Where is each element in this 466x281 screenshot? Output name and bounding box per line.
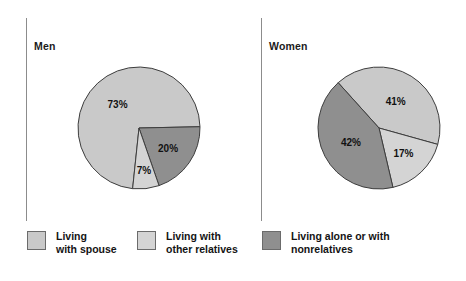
legend-label-living-alone-or-nonrelatives: Living alone or with nonrelatives xyxy=(291,230,390,255)
panel-divider-left xyxy=(26,18,27,221)
legend-swatch-living-with-spouse xyxy=(27,231,46,250)
legend-swatch-living-with-other-relatives xyxy=(137,231,156,250)
legend-label-living-with-spouse: Living with spouse xyxy=(56,230,117,255)
panel-divider-right xyxy=(261,18,262,221)
pie-slice-label: 20% xyxy=(158,143,178,154)
pie-chart-women: 41%17%42% xyxy=(316,65,442,191)
legend-item-living-with-spouse: Living with spouse xyxy=(27,230,117,255)
panel-title-women: Women xyxy=(269,40,308,52)
pie-slice-label: 17% xyxy=(393,148,413,159)
legend-item-living-with-other-relatives: Living with other relatives xyxy=(137,230,238,255)
legend-item-living-alone-or-nonrelatives: Living alone or with nonrelatives xyxy=(262,230,390,255)
pie-chart-men: 73%20%7% xyxy=(76,65,202,191)
pie-slice-label: 7% xyxy=(137,165,152,176)
legend-label-living-with-other-relatives: Living with other relatives xyxy=(166,230,238,255)
panel-title-men: Men xyxy=(34,40,56,52)
pie-slice-label: 42% xyxy=(341,137,361,148)
pie-slice-label: 73% xyxy=(108,99,128,110)
pie-slice-label: 41% xyxy=(386,96,406,107)
pie-chart-figure: Men Women 73%20%7% 41%17%42% Living with… xyxy=(0,0,466,281)
chart-legend: Living with spouse Living with other rel… xyxy=(0,228,466,268)
legend-swatch-living-alone-or-nonrelatives xyxy=(262,231,281,250)
